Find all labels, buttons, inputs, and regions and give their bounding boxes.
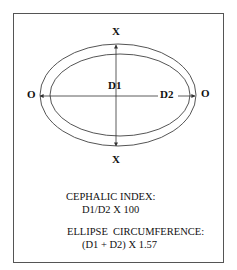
cephalic-index-expr: D1/D2 X 100	[82, 204, 139, 215]
cephalic-index-title: CEPHALIC INDEX:	[66, 191, 156, 202]
label-right-o: O	[201, 87, 210, 99]
ellipse-circumference-title: ELLIPSE CIRCUMFERENCE:	[67, 226, 204, 237]
label-left-o: O	[27, 88, 36, 100]
label-top-x: X	[112, 25, 120, 37]
ellipse-circumference-expr: (D1 + D2) X 1.57	[82, 239, 157, 250]
label-bottom-x: X	[112, 153, 120, 165]
label-d2: D2	[160, 88, 173, 100]
label-d1: D1	[108, 79, 121, 91]
